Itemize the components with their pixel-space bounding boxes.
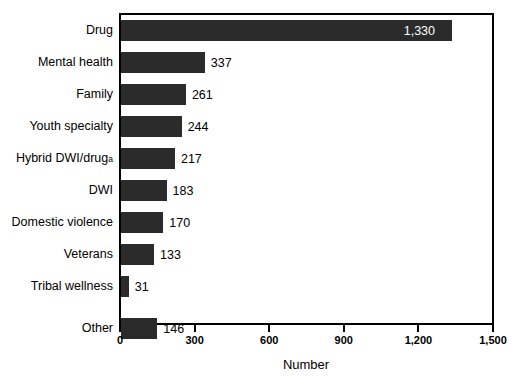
- bar-row: 261: [121, 84, 494, 105]
- bar-row: 31: [121, 276, 494, 297]
- bar-value-label: 31: [135, 280, 149, 293]
- bar: [121, 276, 129, 297]
- category-label: Other: [0, 318, 113, 339]
- x-axis-title-label: Number: [283, 357, 329, 372]
- bar-row: 133: [121, 244, 494, 265]
- bar-row: 183: [121, 180, 494, 201]
- bar-chart-figure: DrugMental healthFamilyYouth specialtyHy…: [0, 0, 518, 384]
- bar: [121, 148, 175, 169]
- x-axis: 03006009001,2001,500: [119, 325, 494, 326]
- category-label: DWI: [0, 180, 113, 201]
- bar-row: 170: [121, 212, 494, 233]
- bar: [121, 116, 182, 137]
- x-tick-label: 1,500: [479, 335, 507, 346]
- bar: [121, 318, 157, 339]
- x-tick: [194, 325, 196, 332]
- category-axis-labels: DrugMental healthFamilyYouth specialtyHy…: [0, 15, 113, 324]
- x-tick-label: 900: [335, 335, 353, 346]
- bar-row: 217: [121, 148, 494, 169]
- category-label: Mental health: [0, 52, 113, 73]
- x-tick-label: 300: [185, 335, 203, 346]
- bar-value-label: 1,330: [404, 24, 435, 37]
- bars-area: 1,33033726124421718317013331146: [121, 15, 494, 324]
- x-axis-title: Number: [0, 358, 518, 371]
- bar-value-label: 244: [188, 120, 209, 133]
- category-label: Drug: [0, 20, 113, 41]
- x-tick: [343, 325, 345, 332]
- bar: [121, 244, 154, 265]
- x-tick: [268, 325, 270, 332]
- x-tick-label: 0: [117, 335, 123, 346]
- category-label: Tribal wellness: [0, 276, 113, 297]
- x-tick: [417, 325, 419, 332]
- x-tick: [119, 325, 121, 332]
- bar-row: 244: [121, 116, 494, 137]
- category-label: Hybrid DWI/druga: [0, 148, 113, 169]
- bar-value-label: 133: [160, 248, 181, 261]
- category-label: Domestic violence: [0, 212, 113, 233]
- bar-row: 1,330: [121, 20, 494, 41]
- category-label: Veterans: [0, 244, 113, 265]
- bar-row: 337: [121, 52, 494, 73]
- bar: [121, 180, 167, 201]
- bar-row: 146: [121, 318, 494, 339]
- bar-value-label: 170: [169, 216, 190, 229]
- x-tick-label: 600: [260, 335, 278, 346]
- bar-value-label: 261: [192, 88, 213, 101]
- x-tick: [492, 325, 494, 332]
- bar-value-label: 183: [173, 184, 194, 197]
- x-tick-label: 1,200: [405, 335, 433, 346]
- bar: [121, 52, 205, 73]
- category-label: Family: [0, 84, 113, 105]
- bar: [121, 20, 452, 41]
- category-label: Youth specialty: [0, 116, 113, 137]
- bar: [121, 84, 186, 105]
- bar-value-label: 337: [211, 56, 232, 69]
- bar-value-label: 217: [181, 152, 202, 165]
- bar: [121, 212, 163, 233]
